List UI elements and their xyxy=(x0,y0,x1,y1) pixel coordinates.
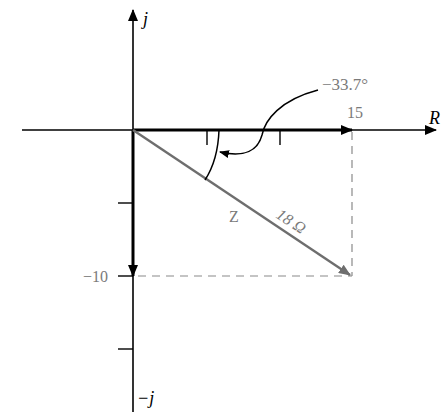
impedance-name-label: Z xyxy=(229,208,239,225)
impedance-vector xyxy=(133,130,350,275)
impedance-magnitude-label: 18 Ω xyxy=(273,205,309,237)
imag-pos-label: j xyxy=(141,9,148,29)
reactance-value-label: −10 xyxy=(83,268,108,285)
real-axis-label: R xyxy=(428,108,440,128)
imag-neg-label: −j xyxy=(137,388,154,408)
resistance-value-label: 15 xyxy=(347,104,363,121)
phasor-diagram: j R −j −33.7° 15 −10 Z 18 Ω xyxy=(0,0,448,420)
angle-label: −33.7° xyxy=(322,75,368,94)
angle-leader-curve xyxy=(220,90,318,154)
